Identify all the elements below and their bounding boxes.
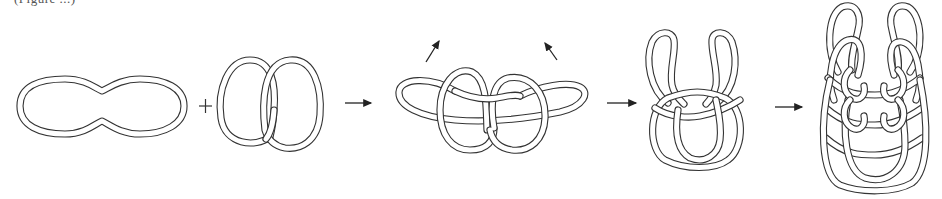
lift-right-arrow-icon [545,43,557,60]
diagram-canvas [0,0,942,199]
step-3-woven-figure [399,41,585,150]
step-1-peanut-loop [20,79,184,134]
step-5-stacked-chain [823,6,925,191]
lift-left-arrow-icon [426,41,439,62]
plus-operator [199,99,212,113]
knot-sequence-figure: (Figure ...) [0,0,942,199]
step-2-interlinked-loops [220,60,320,148]
step-4-u-chain [649,33,740,168]
